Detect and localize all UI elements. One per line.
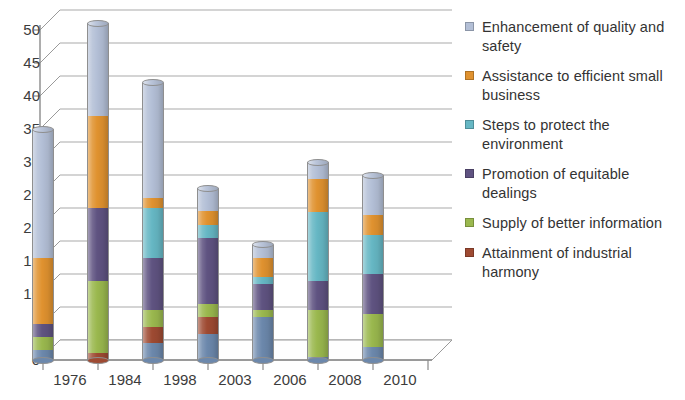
bar-segment [253, 277, 273, 284]
bar-top-ellipse [87, 20, 109, 27]
bar-base-ellipse [307, 357, 329, 364]
bar-segment [143, 327, 163, 344]
x-tick-label: 1976 [42, 372, 98, 388]
y-tick-label: 40 [6, 88, 40, 103]
x-tick-label: 1984 [97, 372, 153, 388]
bar-segment [363, 175, 383, 215]
bar-base-ellipse [32, 357, 54, 364]
bar-segment [143, 83, 163, 199]
legend-item[interactable]: Assistance to efficient small business [465, 67, 685, 105]
bar-segment [253, 310, 273, 317]
bar-base-ellipse [87, 357, 109, 364]
legend-swatch-icon [465, 169, 474, 178]
x-tick-label: 2006 [262, 372, 318, 388]
bar-segment [198, 238, 218, 304]
bar-segment [253, 284, 273, 310]
legend-item[interactable]: Supply of better information [465, 214, 685, 233]
y-tick-label: 45 [6, 55, 40, 70]
legend-swatch-icon [465, 248, 474, 257]
bar-segment [33, 258, 53, 324]
x-tick-label: 2008 [317, 372, 373, 388]
legend-item-label: Promotion of equitable dealings [482, 165, 685, 203]
bar-segment [308, 281, 328, 311]
legend-item-label: Enhancement of quality and safety [482, 18, 685, 56]
plot-area: 50 45 40 35 30 25 20 15 10 5 0 1976 1984… [0, 0, 460, 400]
bar-top-ellipse [362, 172, 384, 179]
bar-segment [363, 235, 383, 275]
bar-segment [363, 314, 383, 347]
bar-segment [253, 317, 273, 360]
legend-swatch-icon [465, 120, 474, 129]
bar-top-ellipse [252, 241, 274, 248]
legend-item-label: Supply of better information [482, 214, 662, 233]
bar-base-ellipse [362, 357, 384, 364]
bar-segment [143, 198, 163, 208]
bar-segment [363, 215, 383, 235]
bar-segment [33, 337, 53, 350]
legend-swatch-icon [465, 71, 474, 80]
bar-segment [143, 310, 163, 327]
bar-segment [308, 310, 328, 356]
x-tick-label: 2003 [207, 372, 263, 388]
bar-2006[interactable] [252, 245, 274, 361]
legend-item[interactable]: Enhancement of quality and safety [465, 18, 685, 56]
bar-segment [33, 129, 53, 258]
x-tick-label: 2010 [372, 372, 428, 388]
legend-item-label: Steps to protect the environment [482, 116, 685, 154]
bar-segment [143, 208, 163, 258]
bar-segment [308, 179, 328, 212]
bar-base-ellipse [252, 357, 274, 364]
bar-top-ellipse [197, 185, 219, 192]
bar-base-ellipse [142, 357, 164, 364]
legend-item[interactable]: Attainment of industrial harmony [465, 244, 685, 282]
y-tick-label: 50 [6, 22, 40, 37]
legend-item[interactable]: Steps to protect the environment [465, 116, 685, 154]
bar-segment [198, 225, 218, 238]
bar-2003[interactable] [197, 188, 219, 360]
bar-top-ellipse [32, 126, 54, 133]
legend-item[interactable]: Promotion of equitable dealings [465, 165, 685, 203]
bar-2008[interactable] [307, 162, 329, 360]
bar-segment [88, 23, 108, 115]
bar-segment [88, 281, 108, 354]
bar-2010[interactable] [362, 175, 384, 360]
bar-segment [143, 258, 163, 311]
bar-1998[interactable] [142, 83, 164, 360]
legend-swatch-icon [465, 22, 474, 31]
legend-item-label: Attainment of industrial harmony [482, 244, 685, 282]
bar-segment [33, 324, 53, 337]
chart-legend: Enhancement of quality and safety Assist… [465, 18, 685, 293]
bar-segment [88, 116, 108, 208]
bar-segment [198, 211, 218, 224]
legend-swatch-icon [465, 218, 474, 227]
chart-frame [0, 0, 460, 400]
bar-segment [198, 334, 218, 360]
bar-segment [253, 258, 273, 278]
bar-segment [198, 317, 218, 334]
stacked-bar-chart: 50 45 40 35 30 25 20 15 10 5 0 1976 1984… [0, 0, 685, 400]
bar-segment [88, 208, 108, 281]
bar-segment [363, 274, 383, 314]
bar-1976[interactable] [32, 129, 54, 360]
legend-item-label: Assistance to efficient small business [482, 67, 685, 105]
bar-base-ellipse [197, 357, 219, 364]
bar-top-ellipse [307, 159, 329, 166]
bar-segment [198, 304, 218, 317]
x-tick-label: 1998 [152, 372, 208, 388]
bar-1984[interactable] [87, 23, 109, 360]
bar-segment [308, 212, 328, 281]
